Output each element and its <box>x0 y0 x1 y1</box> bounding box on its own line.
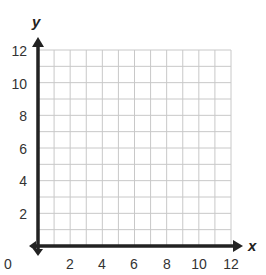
x-tick-label: 2 <box>66 256 74 272</box>
x-tick-label: 8 <box>163 256 171 272</box>
y-axis-arrow-down-icon <box>33 249 43 256</box>
y-tick-label: 6 <box>19 141 27 157</box>
y-tick-label: 10 <box>11 76 27 92</box>
y-axis-label: y <box>31 13 41 30</box>
x-axis-label: x <box>247 237 257 254</box>
x-tick-label: 10 <box>191 256 207 272</box>
x-tick-label: 4 <box>98 256 106 272</box>
origin-label: 0 <box>4 256 12 272</box>
x-axis-arrow-right-icon <box>233 240 243 252</box>
y-tick-label: 8 <box>19 108 27 124</box>
x-tick-label: 6 <box>130 256 138 272</box>
grid-lines <box>38 50 231 246</box>
y-tick-label: 4 <box>19 173 27 189</box>
y-axis-arrow-up-icon <box>32 37 44 47</box>
x-tick-label: 12 <box>223 256 239 272</box>
y-tick-label: 12 <box>11 43 27 59</box>
y-tick-label: 2 <box>19 206 27 222</box>
coordinate-grid: y x 0 2 4 6 8 10 12 2 4 6 8 10 12 <box>0 0 266 275</box>
